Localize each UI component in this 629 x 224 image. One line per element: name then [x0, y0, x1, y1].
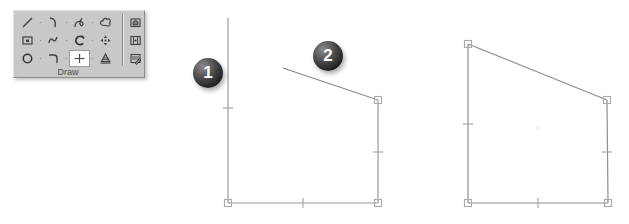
rectangle-tool-button[interactable] — [17, 32, 38, 49]
fillet-icon — [47, 52, 60, 65]
toolbar-icon-grid: · · · — [17, 13, 121, 67]
insert-block-tool-button[interactable] — [126, 13, 145, 31]
toolbar-title: Draw — [14, 67, 122, 78]
arc-tool-button[interactable] — [43, 14, 64, 31]
edit-hatch-tool-button[interactable] — [126, 49, 145, 67]
move-icon — [99, 34, 112, 47]
center-marker — [537, 127, 539, 129]
cad-figure: · · · — [0, 0, 629, 224]
move-tool-button[interactable] — [95, 32, 116, 49]
gradient-icon — [99, 52, 112, 65]
toolbar-divider — [122, 13, 124, 65]
fillet-tool-button[interactable] — [43, 50, 64, 67]
revision-cloud-tool-button[interactable] — [95, 14, 116, 31]
line-tool-button[interactable] — [17, 14, 38, 31]
rectangle-icon — [21, 34, 34, 47]
toolbar-row: · · · — [17, 13, 121, 31]
gradient-tool-button[interactable] — [95, 50, 116, 67]
toolbar-row: · · · — [17, 31, 121, 49]
multiline-icon — [129, 34, 142, 47]
spline-tool-button[interactable] — [69, 14, 90, 31]
new-line-segment — [283, 68, 378, 100]
callout-badge-1: 1 — [193, 58, 223, 88]
polyline-tool-button[interactable] — [43, 32, 64, 49]
circle-icon — [21, 52, 34, 65]
multiline-tool-button[interactable] — [126, 31, 145, 49]
quad-top-edge — [468, 44, 607, 100]
cad-drawing-step-two — [450, 0, 629, 224]
polyline-icon — [47, 34, 60, 47]
toolbar-row: · · · — [17, 49, 121, 67]
edit-hatch-icon — [129, 52, 142, 65]
line-icon — [21, 16, 34, 29]
draw-toolbar[interactable]: · · · — [13, 10, 145, 78]
circle-tool-button[interactable] — [17, 50, 38, 67]
insert-block-icon — [129, 16, 142, 29]
spline-icon — [73, 16, 87, 29]
toolbar-right-column — [126, 13, 146, 67]
arc-icon — [47, 16, 60, 29]
point-tool-button[interactable] — [69, 50, 90, 67]
cad-drawing-step-one — [220, 0, 400, 224]
arc-closed-icon — [73, 34, 86, 47]
revision-cloud-icon — [99, 16, 112, 29]
arc-closed-tool-button[interactable] — [69, 32, 90, 49]
point-tool-icon — [73, 52, 86, 65]
